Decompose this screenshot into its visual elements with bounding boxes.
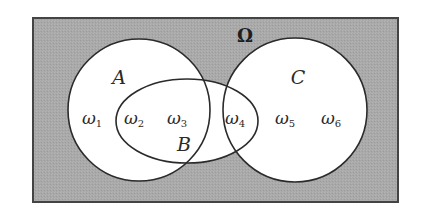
set-b-label: B [176, 133, 191, 155]
venn-diagram: Ω A B C ω1 ω2 ω3 ω4 ω5 ω6 [0, 0, 422, 214]
universe-label: Ω [237, 25, 253, 46]
set-a-label: A [110, 66, 126, 88]
set-c-label: C [291, 66, 306, 88]
